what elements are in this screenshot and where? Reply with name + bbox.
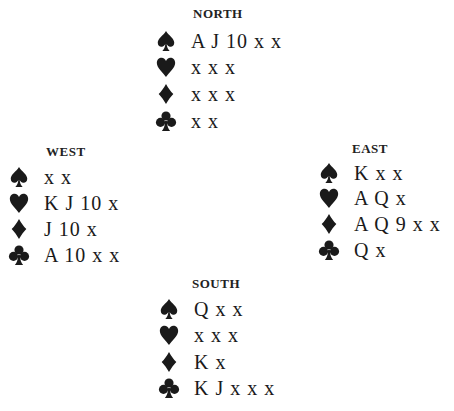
east-hearts: A Q x: [354, 186, 407, 210]
north-hearts: x x x: [191, 55, 236, 79]
south-clubs: K J x x x: [194, 376, 275, 400]
heart-icon: [318, 187, 342, 211]
south-spades: Q x x: [194, 297, 243, 321]
north-clubs: x x: [191, 109, 219, 133]
heart-icon: [8, 192, 32, 216]
club-icon: [8, 244, 32, 268]
diamond-icon: [318, 213, 342, 237]
east-spades: K x x: [354, 161, 403, 185]
north-diamonds: x x x: [191, 82, 236, 106]
club-icon: [155, 110, 179, 134]
heart-icon: [158, 324, 182, 348]
east-label: EAST: [352, 141, 388, 157]
diamond-icon: [8, 218, 32, 242]
spade-icon: [158, 298, 182, 322]
north-label: NORTH: [193, 6, 243, 22]
west-spades: x x: [44, 165, 72, 189]
east-clubs: Q x: [354, 238, 386, 262]
east-diamonds: A Q 9 x x: [354, 212, 441, 236]
club-icon: [318, 239, 342, 263]
north-spades: A J 10 x x: [191, 29, 282, 53]
diamond-icon: [158, 351, 182, 375]
west-label: WEST: [46, 144, 86, 160]
spade-icon: [318, 162, 342, 186]
spade-icon: [8, 166, 32, 190]
diamond-icon: [155, 83, 179, 107]
west-diamonds: J 10 x: [44, 217, 98, 241]
south-diamonds: K x: [194, 350, 226, 374]
west-hearts: K J 10 x: [44, 191, 119, 215]
heart-icon: [155, 56, 179, 80]
spade-icon: [155, 30, 179, 54]
south-label: SOUTH: [192, 276, 240, 292]
south-hearts: x x x: [194, 323, 239, 347]
club-icon: [158, 377, 182, 401]
west-clubs: A 10 x x: [44, 243, 120, 267]
